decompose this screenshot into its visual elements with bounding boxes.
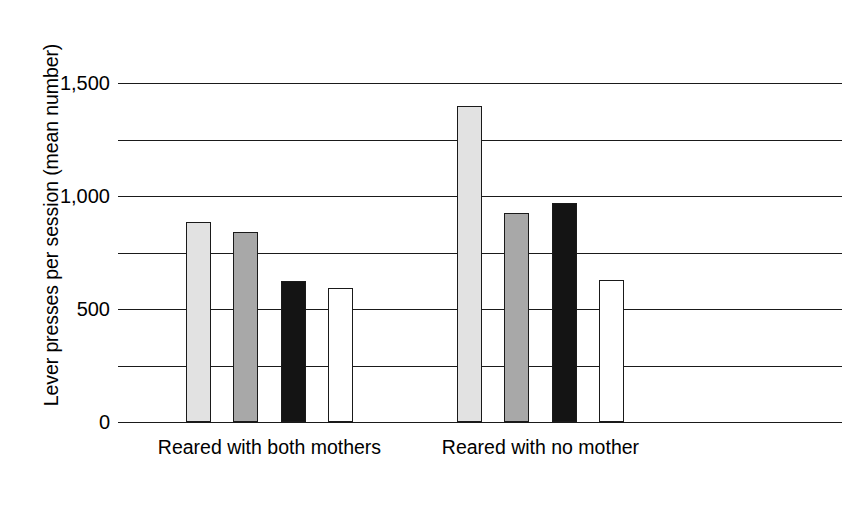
y-axis-tick-labels: 05001,0001,500: [0, 83, 110, 422]
y-axis-tick-mark: [118, 366, 152, 367]
x-axis-group-labels: Reared with both mothersReared with no m…: [152, 436, 842, 476]
plot-area: [152, 83, 842, 422]
bar-chart-figure: Lever presses per session (mean number) …: [0, 0, 851, 511]
axis-baseline: [152, 422, 842, 423]
y-axis-tick-mark: [118, 422, 152, 423]
bar: [457, 106, 482, 422]
y-axis-tick-mark: [118, 140, 152, 141]
gridline: [152, 196, 842, 197]
gridline: [152, 83, 842, 84]
y-axis-tick-label: 1,000: [60, 186, 110, 206]
y-axis-tick-mark: [118, 253, 152, 254]
bar: [281, 281, 306, 422]
x-axis-group-label: Reared with both mothers: [119, 436, 419, 459]
bar: [552, 203, 577, 422]
bar: [233, 232, 258, 422]
y-axis-tick-label: 0: [99, 412, 110, 432]
gridline: [152, 140, 842, 141]
bar: [328, 288, 353, 422]
y-axis-tick-mark: [118, 196, 152, 197]
x-axis-group-label: Reared with no mother: [390, 436, 690, 459]
y-axis-tick-label: 1,500: [60, 73, 110, 93]
bar: [186, 222, 211, 422]
y-axis-tick-label: 500: [77, 299, 110, 319]
bar: [599, 280, 624, 422]
y-axis-tick-mark: [118, 309, 152, 310]
y-axis-tick-mark: [118, 83, 152, 84]
bar: [504, 213, 529, 422]
